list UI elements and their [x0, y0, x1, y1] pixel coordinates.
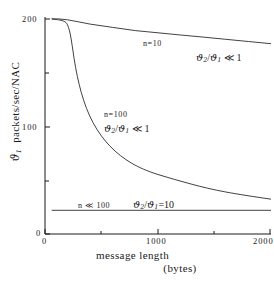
annotation-n10-ratio: ϑ2/ϑ1 ≪ 1	[196, 52, 241, 64]
x-tick-label-0: 0	[42, 236, 47, 246]
annotation-n-much-less-100-ratio: ϑ2/ϑ1=10	[133, 199, 174, 211]
x-axis-title-line2: (bytes)	[96, 262, 246, 275]
y-tick-label-0: 0	[36, 228, 41, 238]
y-axis-title-symbol: ϑ1	[9, 149, 22, 162]
x-axis-title-line1: message length	[96, 249, 246, 262]
x-axis-ticks	[45, 229, 270, 234]
annotation-n-much-less-100-label: n ≪ 100	[78, 201, 110, 210]
annotation-n10-label: n=10	[143, 39, 162, 48]
x-tick-label-2000: 2000	[253, 236, 274, 246]
x-tick-label-1000: 1000	[146, 236, 167, 246]
chart-figure: 200 100 0 0 1000 2000 ϑ1 packets/sec/NAC…	[0, 0, 274, 283]
annotation-n100-ratio: ϑ2/ϑ1 ≪ 1	[104, 123, 149, 135]
y-tick-label-100: 100	[22, 122, 37, 132]
y-tick-label-200: 200	[22, 14, 37, 24]
y-axis-ticks	[45, 19, 50, 234]
y-axis-title: ϑ1 packets/sec/NAC	[9, 22, 22, 202]
annotation-n100-label: n=100	[104, 110, 128, 119]
x-axis-title: message length (bytes)	[96, 249, 246, 275]
